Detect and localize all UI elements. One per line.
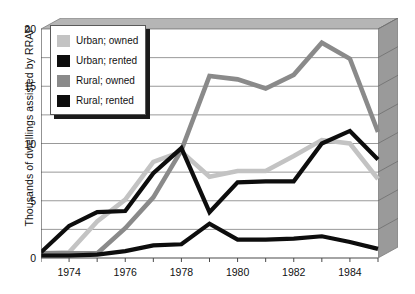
x-tick-label: 1982 bbox=[282, 266, 305, 278]
y-tick-label: 0 bbox=[14, 252, 36, 264]
x-tick-label: 1984 bbox=[338, 266, 361, 278]
legend-label: Urban; owned bbox=[76, 35, 138, 47]
legend-item: Rural; rented bbox=[57, 91, 141, 111]
legend-swatch bbox=[57, 95, 70, 107]
rrap-line-chart: Thousands of dwellings assisted by RRAP … bbox=[0, 0, 415, 294]
legend-item: Urban; rented bbox=[57, 51, 141, 71]
legend-label: Urban; rented bbox=[76, 55, 137, 67]
x-tick-label: 1974 bbox=[57, 266, 80, 278]
x-tick-label: 1976 bbox=[114, 266, 137, 278]
x-tick-label: 1980 bbox=[226, 266, 249, 278]
chart-legend: Urban; ownedUrban; rentedRural; ownedRur… bbox=[50, 25, 146, 115]
y-tick-label: 15 bbox=[14, 80, 36, 92]
legend-item: Urban; owned bbox=[57, 31, 141, 51]
y-tick-label: 20 bbox=[14, 23, 36, 35]
y-tick-label: 5 bbox=[14, 195, 36, 207]
x-tick-label: 1978 bbox=[170, 266, 193, 278]
legend-swatch bbox=[57, 55, 70, 67]
y-tick-label: 10 bbox=[14, 138, 36, 150]
y-axis-tick-labels: 05101520 bbox=[12, 18, 36, 262]
x-axis-tick-labels: 197419761978198019821984 bbox=[41, 266, 381, 284]
legend-label: Rural; rented bbox=[76, 95, 134, 107]
legend-item: Rural; owned bbox=[57, 71, 141, 91]
legend-swatch bbox=[57, 75, 70, 87]
legend-label: Rural; owned bbox=[76, 75, 135, 87]
legend-swatch bbox=[57, 35, 70, 47]
